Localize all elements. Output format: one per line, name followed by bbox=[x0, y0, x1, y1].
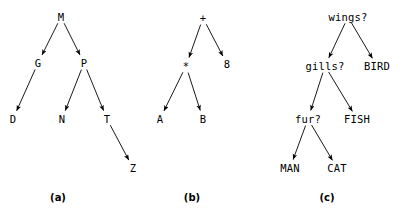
tree-node: B bbox=[200, 114, 207, 125]
tree-edge bbox=[64, 23, 80, 55]
tree-edge bbox=[312, 125, 333, 160]
tree-node: Z bbox=[130, 163, 137, 174]
panel-caption: (b) bbox=[184, 192, 200, 203]
tree-node: * bbox=[183, 61, 190, 72]
tree-node: gills? bbox=[305, 61, 344, 72]
tree-node: fur? bbox=[295, 114, 321, 125]
tree-node: BIRD bbox=[364, 61, 390, 72]
tree-edge bbox=[206, 24, 223, 56]
tree-node: FISH bbox=[344, 114, 370, 125]
tree-edge bbox=[329, 23, 345, 58]
tree-node: + bbox=[200, 13, 207, 24]
tree-node: D bbox=[10, 114, 17, 125]
tree-node: 8 bbox=[224, 59, 231, 70]
tree-edge-layer bbox=[0, 0, 402, 216]
tree-node: N bbox=[59, 114, 66, 125]
tree-node: A bbox=[157, 114, 164, 125]
tree-edge bbox=[189, 25, 201, 58]
tree-edge bbox=[42, 23, 58, 55]
tree-node: G bbox=[35, 58, 42, 69]
tree-node: CAT bbox=[327, 163, 347, 174]
tree-diagram-figure: MGPDNTZ+*8ABwings?gills?BIRDfur?FISHMANC… bbox=[0, 0, 402, 216]
tree-edge bbox=[110, 125, 129, 160]
tree-edge bbox=[311, 73, 323, 111]
panel-caption: (c) bbox=[319, 192, 334, 203]
tree-edge bbox=[352, 23, 373, 58]
tree-node: M bbox=[58, 12, 65, 23]
tree-edge bbox=[87, 69, 104, 110]
tree-edge bbox=[188, 73, 200, 111]
tree-edge bbox=[164, 72, 183, 111]
tree-edge bbox=[293, 126, 305, 160]
panel-caption: (a) bbox=[50, 192, 66, 203]
tree-node: T bbox=[104, 114, 111, 125]
tree-edge bbox=[65, 70, 81, 111]
tree-edge bbox=[329, 72, 353, 111]
tree-node: wings? bbox=[328, 12, 367, 23]
tree-node: P bbox=[81, 58, 88, 69]
tree-node: MAN bbox=[280, 163, 300, 174]
tree-edge bbox=[17, 69, 35, 110]
